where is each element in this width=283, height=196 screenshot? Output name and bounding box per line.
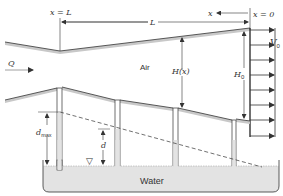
x-eq-L-marker: x = L [50,8,72,51]
d-label: d [101,141,106,150]
lower-wall [5,87,250,124]
x-axis-label: x [208,9,213,18]
top-wall [5,28,250,54]
Q-label: Q [8,59,15,68]
x-eq-L-label: x = L [50,8,72,17]
flow-rate-Q: Q [5,59,33,70]
x-eq-0-marker: x = 0 [250,8,274,30]
free-surface-icon: ▽ [86,156,93,166]
Hx-dimension: H(x) [171,38,190,107]
dmax-label: dmax [36,128,52,138]
water-tank: Water [43,140,279,192]
vertical-tubes [57,88,236,170]
x-direction-arrow: x [208,9,248,18]
Hx-label: H(x) [171,67,190,76]
water-label: Water [140,176,164,186]
H0-dimension: H0 [233,32,246,118]
x-eq-0-label: x = 0 [253,10,274,19]
air-label: Air [140,63,150,72]
dmax-dimension: dmax [36,112,60,164]
tube-water-levels [58,113,236,170]
velocity-profile: V0 [250,28,281,137]
channel-flow-diagram: x = L x = 0 L x V0 Q Air [0,0,283,196]
length-L-dimension: L [62,17,248,27]
V0-label: V0 [270,38,281,49]
d-dimension: d [98,129,110,164]
L-label: L [149,18,155,27]
